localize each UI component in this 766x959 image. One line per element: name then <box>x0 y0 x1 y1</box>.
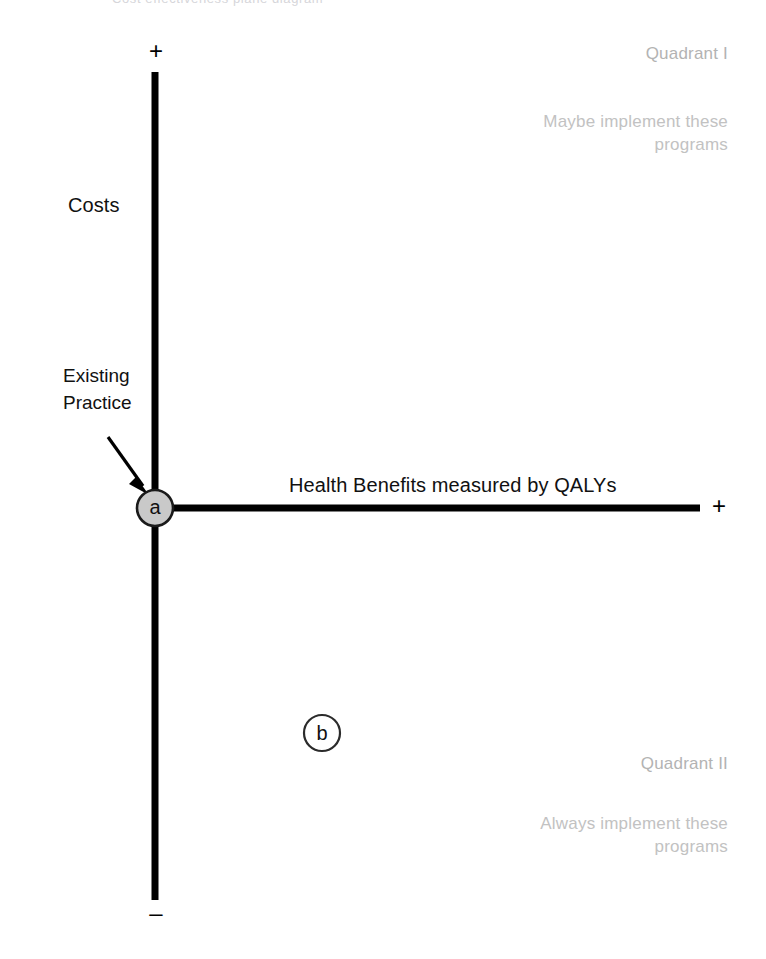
x-axis-label: Health Benefits measured by QALYs <box>289 472 617 500</box>
y-axis-negative-sign: – <box>143 901 169 925</box>
node-b-label: b <box>309 723 335 743</box>
node-a-label: a <box>142 497 168 517</box>
quadrant-1-title: Quadrant I <box>408 42 728 65</box>
existing-practice-arrow <box>108 437 149 495</box>
quadrant-2-title: Quadrant II <box>408 752 728 775</box>
quadrant-1-body: Maybe implement these programs <box>388 110 728 157</box>
existing-practice-label: Existing Practice <box>63 363 132 417</box>
y-axis-positive-sign: + <box>143 39 169 63</box>
cost-effectiveness-plane-figure: Cost effectiveness plane diagram a b + –… <box>0 0 766 959</box>
y-axis-label: Costs <box>68 192 120 220</box>
quadrant-2-body: Always implement these programs <box>388 812 728 859</box>
x-axis-positive-sign: + <box>706 494 732 518</box>
